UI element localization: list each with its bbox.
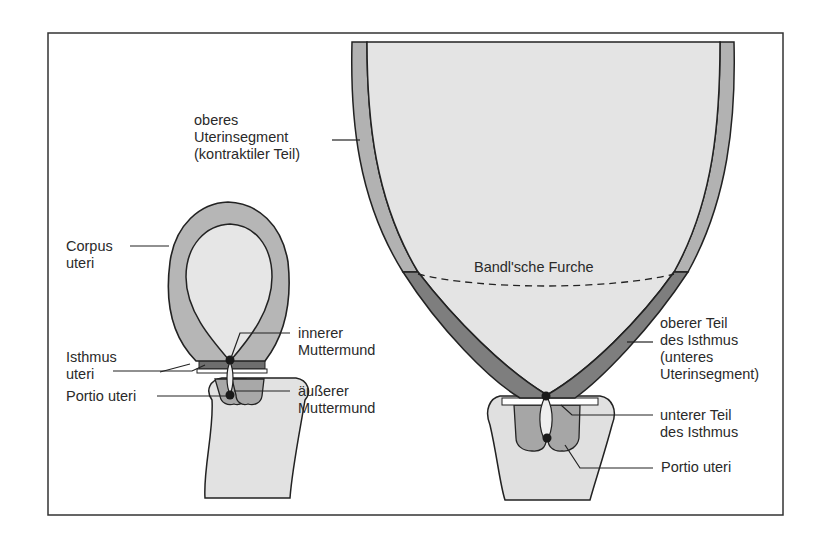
label-aeusserer-muttermund: äußerer Muttermund (298, 383, 375, 417)
right-inner-os-dot (542, 392, 551, 401)
label-isthmus-uteri: Isthmus uteri (66, 349, 117, 383)
label-innerer-muttermund: innerer Muttermund (298, 325, 375, 359)
label-unterer-teil-isthmus: unterer Teil des Isthmus (660, 407, 738, 441)
left-outer-os-dot (226, 391, 235, 400)
label-portio-uteri-left: Portio uteri (66, 388, 136, 405)
label-oberes-uterinsegment: oberes Uterinsegment (kontraktiler Teil) (194, 112, 300, 163)
label-bandlsche-furche: Bandl'sche Furche (474, 259, 594, 276)
left-inner-os-dot (226, 356, 235, 365)
uterus-diagram: Corpus uteri Isthmus uteri Portio uteri … (0, 0, 824, 539)
left-cervical-canal (227, 362, 233, 394)
right-outer-os-dot (543, 434, 552, 443)
label-portio-uteri-right: Portio uteri (661, 459, 731, 476)
label-oberer-teil-isthmus: oberer Teil des Isthmus (unteres Uterins… (660, 315, 759, 383)
label-corpus-uteri: Corpus uteri (66, 238, 113, 272)
